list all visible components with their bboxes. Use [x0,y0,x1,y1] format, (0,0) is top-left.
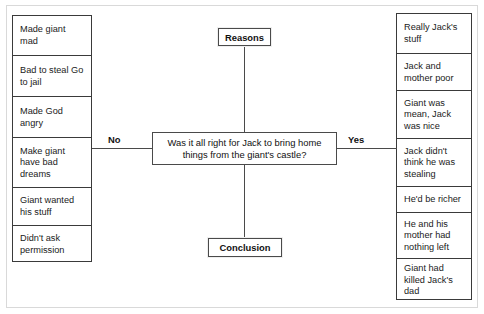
connector-line-left [92,148,153,149]
branch-label-yes: Yes [348,134,364,145]
list-item[interactable]: Made God angry [13,97,91,138]
list-item[interactable]: Made giant mad [13,16,91,56]
connector-line-right [336,148,397,149]
right-reasons-column: Really Jack's stuff Jack and mother poor… [396,13,472,300]
list-item[interactable]: Jack didn't think he was stealing [397,139,471,187]
connector-line-up [244,46,245,133]
reasons-node[interactable]: Reasons [218,28,271,46]
list-item[interactable]: He'd be richer [397,187,471,213]
list-item[interactable]: Giant had killed Jack's dad [397,259,471,301]
list-item[interactable]: Giant wanted his stuff [13,188,91,226]
list-item[interactable]: Bad to steal Go to jail [13,56,91,97]
list-item[interactable]: He and his mother had nothing left [397,213,471,259]
list-item[interactable]: Make giant have bad dreams [13,138,91,188]
diagram-canvas: Made giant mad Bad to steal Go to jail M… [0,0,484,314]
conclusion-node[interactable]: Conclusion [208,238,282,257]
list-item[interactable]: Giant was mean, Jack was nice [397,91,471,139]
list-item[interactable]: Really Jack's stuff [397,14,471,54]
connector-line-down [244,164,245,239]
list-item[interactable]: Jack and mother poor [397,54,471,91]
left-reasons-column: Made giant mad Bad to steal Go to jail M… [12,15,92,262]
question-node[interactable]: Was it all right for Jack to bring home … [152,132,337,165]
branch-label-no: No [108,134,121,145]
list-item[interactable]: Didn't ask permission [13,226,91,263]
